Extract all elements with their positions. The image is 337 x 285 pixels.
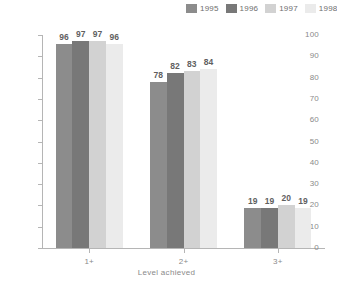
bar-value-label: 97 [93,30,103,39]
bar[interactable] [244,208,261,248]
bar-value-label: 82 [170,62,180,71]
y-axis-tick [38,35,42,36]
bar[interactable] [278,205,295,248]
legend-swatch-1996 [226,4,237,13]
bar[interactable] [150,82,167,248]
y-axis-tick [38,184,42,185]
x-axis-tick-label: 2+ [179,257,189,266]
bar[interactable] [261,208,278,248]
bar-value-label: 83 [187,60,197,69]
legend-swatch-1995 [186,4,197,13]
y-axis-tick-label: 30 [310,180,319,188]
bar-value-label: 96 [109,33,119,42]
legend-label-1995: 1995 [200,4,219,13]
y-axis-tick [38,163,42,164]
bar[interactable] [72,41,89,248]
y-axis-tick [38,78,42,79]
y-axis-tick [38,205,42,206]
legend-entry-1997[interactable]: 1997 [265,4,298,13]
y-axis-tick [38,227,42,228]
bar-value-label: 96 [59,33,69,42]
y-axis-tick-label: 70 [310,95,319,103]
bar[interactable] [167,73,184,248]
legend-swatch-1997 [265,4,276,13]
bar-value-label: 84 [204,58,214,67]
x-axis-tick [89,249,90,253]
y-axis-tick-label: 40 [310,159,319,167]
bar[interactable] [56,44,73,248]
x-axis-tick [184,249,185,253]
x-axis-tick-label: 3+ [273,257,283,266]
y-axis-tick-label: 90 [310,52,319,60]
bar-value-label: 78 [154,71,164,80]
legend-swatch-1998 [305,4,316,13]
bar-value-label: 20 [281,194,291,203]
legend-label-1997: 1997 [279,4,298,13]
bar-value-label: 19 [265,197,275,206]
bar-value-label: 19 [248,197,258,206]
y-axis-tick [38,248,42,249]
y-axis-tick-label: 60 [310,116,319,124]
y-axis-tick-label: 0 [314,244,319,252]
legend-label-1998: 1998 [319,4,337,13]
y-axis-tick [38,99,42,100]
bar[interactable] [200,69,217,248]
bar-value-label: 97 [76,30,86,39]
x-axis-tick [278,249,279,253]
bar[interactable] [89,41,106,248]
y-axis-line [42,35,43,248]
x-axis-tick-label: 1+ [84,257,94,266]
y-axis-tick-label: 50 [310,138,319,146]
bar[interactable] [106,44,123,248]
y-axis-tick-label: 100 [305,31,319,39]
legend-entry-1996[interactable]: 1996 [226,4,259,13]
legend-entry-1998[interactable]: 1998 [305,4,337,13]
bar-value-label: 19 [298,197,308,206]
y-axis-tick-label: 80 [310,74,319,82]
legend-label-1996: 1996 [240,4,259,13]
legend-entry-1995[interactable]: 1995 [186,4,219,13]
y-axis-tick [38,120,42,121]
chart-legend: 1995199619971998 [186,4,337,13]
plot-area: 0102030405060708090100969797961+78828384… [42,35,325,248]
bar[interactable] [184,71,201,248]
y-axis-tick [38,142,42,143]
y-axis-tick [38,56,42,57]
x-axis-title: Level achieved [0,268,333,277]
bar[interactable] [295,208,312,248]
